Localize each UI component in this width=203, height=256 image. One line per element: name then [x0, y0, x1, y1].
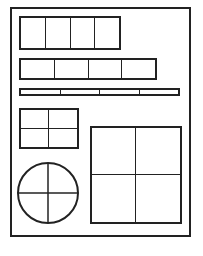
quartered-circle: [0, 0, 203, 256]
wireframe-diagram: [0, 0, 203, 256]
